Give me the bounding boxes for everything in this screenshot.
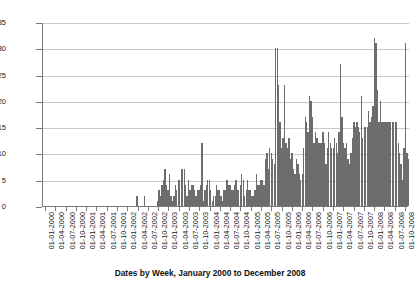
x-tick-mark — [261, 207, 262, 211]
x-tick-label: 01-04-2008 — [387, 212, 394, 249]
x-tick-mark — [240, 207, 241, 211]
x-tick-label: 01-04-2005 — [264, 212, 271, 249]
bar — [136, 196, 137, 207]
x-tick-mark — [302, 207, 303, 211]
x-tick-label: 01-01-2004 — [213, 212, 220, 249]
x-tick-label: 01-01-2001 — [89, 212, 96, 249]
x-tick-label: 01-10-2007 — [367, 212, 374, 249]
x-tick-label: 01-10-2003 — [202, 212, 209, 249]
bar — [408, 159, 409, 206]
x-tick-mark — [189, 207, 190, 211]
x-tick-label: 01-10-2006 — [326, 212, 333, 249]
gridline — [43, 102, 409, 103]
x-tick-label: 01-01-2003 — [171, 212, 178, 249]
x-tick-label: 01-07-2007 — [357, 212, 364, 249]
x-tick-label: 01-07-2005 — [274, 212, 281, 249]
x-tick-mark — [220, 207, 221, 211]
x-tick-label: 01-10-2001 — [120, 212, 127, 249]
x-tick-mark — [210, 207, 211, 211]
y-tick-label: 0 — [0, 203, 6, 211]
y-tick-label: 10 — [0, 150, 6, 158]
gridline — [43, 23, 409, 24]
x-tick-mark — [168, 207, 169, 211]
x-tick-label: 01-04-2000 — [58, 212, 65, 249]
x-tick-label: 01-07-2001 — [110, 212, 117, 249]
x-tick-mark — [343, 207, 344, 211]
x-tick-mark — [117, 207, 118, 211]
x-tick-mark — [107, 207, 108, 211]
x-tick-label: 01-04-2004 — [223, 212, 230, 249]
x-tick-mark — [364, 207, 365, 211]
plot-area — [42, 23, 408, 207]
x-tick-mark — [405, 207, 406, 211]
x-tick-mark — [86, 207, 87, 211]
x-tick-mark — [45, 207, 46, 211]
y-tick-label: 20 — [0, 98, 6, 106]
x-tick-mark — [76, 207, 77, 211]
x-tick-mark — [282, 207, 283, 211]
x-tick-mark — [230, 207, 231, 211]
x-tick-label: 01-10-2002 — [161, 212, 168, 249]
x-tick-mark — [138, 207, 139, 211]
x-tick-mark — [148, 207, 149, 211]
x-tick-label: 01-10-2008 — [408, 212, 415, 249]
x-tick-label: 01-07-2003 — [192, 212, 199, 249]
x-tick-label: 01-10-2000 — [79, 212, 86, 249]
x-tick-label: 01-01-2005 — [254, 212, 261, 249]
y-tick-mark — [36, 207, 42, 208]
x-tick-mark — [179, 207, 180, 211]
x-tick-label: 01-04-2006 — [305, 212, 312, 249]
x-tick-label: 01-04-2003 — [182, 212, 189, 249]
x-tick-label: 01-01-2007 — [336, 212, 343, 249]
x-tick-label: 01-07-2002 — [151, 212, 158, 249]
x-tick-mark — [354, 207, 355, 211]
y-tick-label: 35 — [0, 19, 6, 27]
x-tick-mark — [395, 207, 396, 211]
x-tick-mark — [199, 207, 200, 211]
x-tick-mark — [251, 207, 252, 211]
bar-chart: 05101520253035 01-01-200001-04-200001-07… — [0, 0, 420, 291]
bar — [201, 143, 202, 206]
gridline — [43, 76, 409, 77]
x-tick-mark — [384, 207, 385, 211]
x-tick-mark — [323, 207, 324, 211]
bar — [144, 196, 145, 207]
y-tick-label: 15 — [0, 124, 6, 132]
gridline — [43, 49, 409, 50]
x-tick-label: 01-07-2006 — [315, 212, 322, 249]
x-tick-mark — [374, 207, 375, 211]
x-tick-mark — [312, 207, 313, 211]
x-axis-title: Dates by Week, January 2000 to December … — [0, 268, 420, 278]
x-tick-label: 01-04-2001 — [99, 212, 106, 249]
x-tick-label: 01-10-2004 — [243, 212, 250, 249]
x-tick-label: 01-01-2002 — [130, 212, 137, 249]
x-tick-mark — [158, 207, 159, 211]
x-tick-label: 01-01-2008 — [377, 212, 384, 249]
x-tick-mark — [127, 207, 128, 211]
y-tick-label: 5 — [0, 177, 6, 185]
x-tick-label: 01-10-2005 — [285, 212, 292, 249]
x-tick-mark — [55, 207, 56, 211]
x-tick-label: 01-04-2002 — [141, 212, 148, 249]
x-tick-label: 01-07-2000 — [69, 212, 76, 249]
x-tick-label: 01-01-2006 — [295, 212, 302, 249]
x-tick-label: 01-04-2007 — [346, 212, 353, 249]
x-tick-mark — [333, 207, 334, 211]
x-tick-mark — [271, 207, 272, 211]
x-tick-mark — [292, 207, 293, 211]
x-tick-mark — [66, 207, 67, 211]
x-tick-label: 01-07-2004 — [233, 212, 240, 249]
y-tick-label: 30 — [0, 45, 6, 53]
x-tick-mark — [96, 207, 97, 211]
x-tick-label: 01-01-2000 — [48, 212, 55, 249]
y-tick-label: 25 — [0, 72, 6, 80]
x-tick-label: 01-07-2008 — [398, 212, 405, 249]
